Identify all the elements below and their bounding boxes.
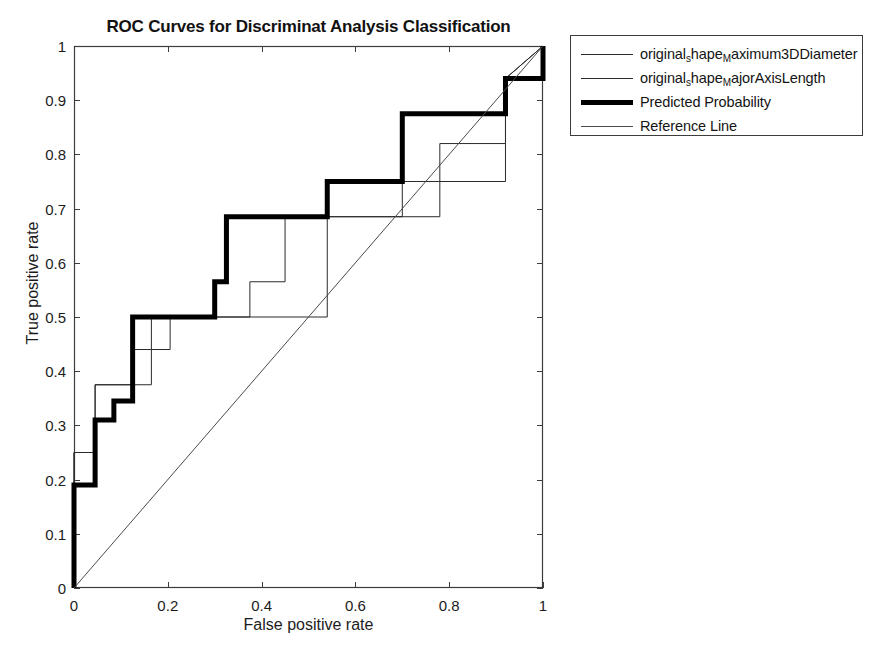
y-axis-label: True positive rate [24, 193, 42, 373]
legend-label: Reference Line [640, 118, 737, 134]
x-tick-label: 1 [539, 597, 547, 614]
y-tick-label: 0.7 [10, 200, 66, 217]
y-tick-label: 0.3 [10, 417, 66, 434]
legend-label: originalshapeMajorAxisLength [640, 70, 825, 86]
legend: originalshapeMaximum3DDiameteroriginalsh… [570, 35, 863, 136]
thick-line-sample-icon [581, 94, 633, 110]
thin-line-sample-icon [581, 46, 633, 62]
legend-label: Predicted Probability [640, 94, 771, 110]
y-tick-label: 0.2 [10, 471, 66, 488]
y-tick-label: 0.8 [10, 146, 66, 163]
legend-entry[interactable]: Predicted Probability [571, 90, 862, 114]
y-tick-label: 0 [10, 580, 66, 597]
y-tick-label: 0.4 [10, 363, 66, 380]
legend-entry[interactable]: Reference Line [571, 114, 862, 138]
legend-label: originalshapeMaximum3DDiameter [640, 46, 857, 62]
x-axis-label: False positive rate [74, 616, 543, 634]
y-tick-label: 0.5 [10, 309, 66, 326]
legend-entry[interactable]: originalshapeMajorAxisLength [571, 66, 862, 90]
x-tick-label: 0.4 [251, 597, 272, 614]
legend-entry[interactable]: originalshapeMaximum3DDiameter [571, 42, 862, 66]
x-tick-label: 0.6 [345, 597, 366, 614]
thin-line-sample-icon [581, 70, 633, 86]
x-tick-label: 0.8 [439, 597, 460, 614]
thin-line-sample-icon [581, 118, 633, 134]
x-tick-label: 0 [70, 597, 78, 614]
y-tick-label: 0.9 [10, 92, 66, 109]
x-tick-label: 0.2 [157, 597, 178, 614]
roc-figure: ROC Curves for Discriminat Analysis Clas… [0, 0, 885, 651]
y-tick-label: 0.1 [10, 525, 66, 542]
y-tick-label: 0.6 [10, 254, 66, 271]
y-tick-label: 1 [10, 38, 66, 55]
series-lines [74, 46, 543, 588]
